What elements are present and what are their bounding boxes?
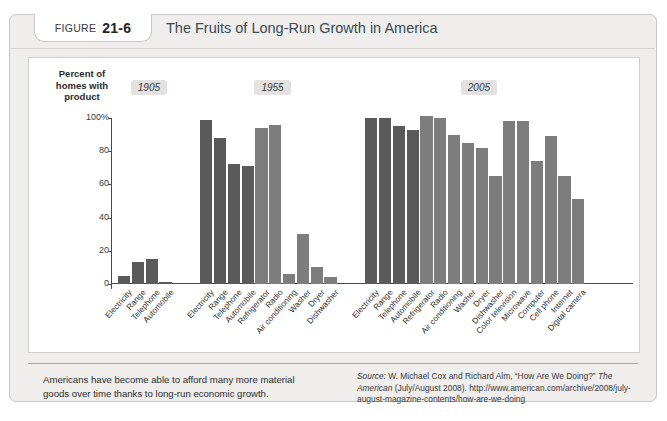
figure-caption: Americans have become able to afford man…	[43, 373, 318, 400]
year-badge-1905: 1905	[131, 80, 167, 95]
x-axis-labels: ElectricityRangeTelephoneAutomobileElect…	[112, 286, 637, 348]
figure-title: The Fruits of Long-Run Growth in America	[166, 20, 438, 36]
y-tick-80: 80	[61, 151, 109, 152]
source-prefix: Source:	[357, 371, 386, 381]
header-divider	[11, 48, 655, 49]
bar-1905-electricity	[118, 276, 130, 284]
source-italic-american: American	[357, 383, 392, 393]
bar-2005-color-television	[503, 121, 515, 284]
bar-2005-range	[379, 118, 391, 284]
y-tick-20: 20	[61, 251, 109, 252]
bar-2005-telephone	[393, 126, 405, 284]
y-tick-0: 0	[61, 284, 109, 285]
bar-1955-range	[214, 138, 226, 284]
source-text-2: (July/August 2008). http://www.american.…	[392, 383, 615, 393]
figure-number: 21-6	[102, 20, 131, 36]
y-tick-label: 0	[69, 278, 109, 288]
y-axis-title: Percent of homes with product	[43, 68, 121, 103]
y-tick-label: 80	[69, 145, 109, 155]
y-tick-label: 40	[69, 212, 109, 222]
y-tick-40: 40	[61, 218, 109, 219]
y-tick-label: 100%	[69, 112, 109, 122]
figure-source: Source: W. Michael Cox and Richard Alm, …	[357, 371, 642, 406]
year-badge-2005: 2005	[461, 80, 497, 95]
figure-number-tab: FIGURE 21-6	[34, 14, 152, 42]
y-tick-label: 60	[69, 178, 109, 188]
bar-2005-electricity	[365, 118, 377, 284]
y-tick-60: 60	[61, 184, 109, 185]
bar-1955-automobile	[242, 166, 254, 284]
y-tick-100: 100%	[61, 118, 109, 119]
year-badge-1955: 1955	[254, 80, 290, 95]
figure-container: FIGURE 21-6 The Fruits of Long-Run Growt…	[9, 14, 657, 402]
bar-1955-electricity	[200, 120, 212, 284]
bar-series	[112, 118, 633, 284]
y-tick-label: 20	[69, 245, 109, 255]
source-italic-the: The	[598, 371, 612, 381]
figure-word-label: FIGURE	[55, 22, 96, 34]
footer-divider	[28, 363, 638, 364]
bar-2005-automobile	[407, 130, 419, 284]
chart-panel: Percent of homes with product 0204060801…	[28, 57, 640, 353]
source-text-1: W. Michael Cox and Richard Alm, “How Are…	[386, 371, 598, 381]
